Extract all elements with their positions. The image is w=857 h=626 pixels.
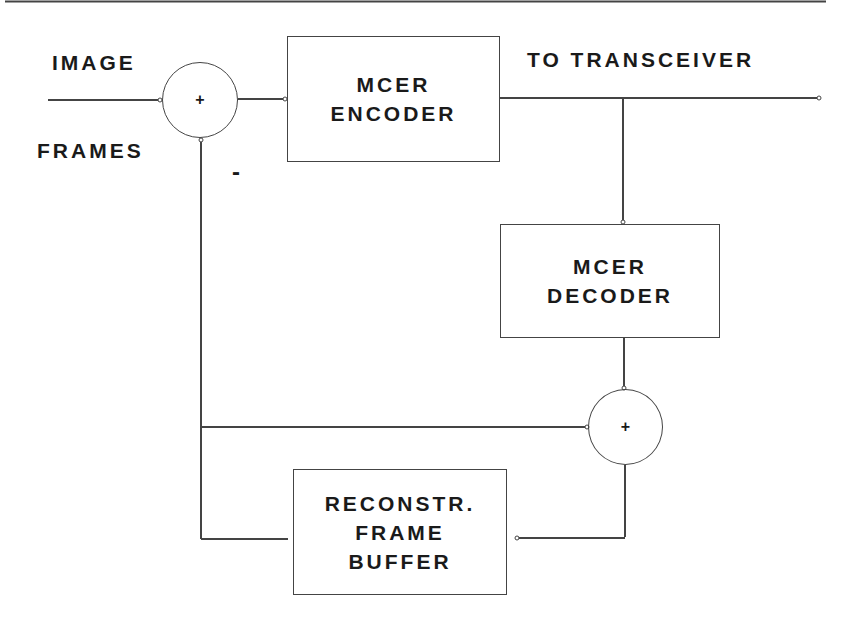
encoder-line2: ENCODER — [330, 99, 456, 128]
reconstructed-frame-buffer-block: RECONSTR. FRAME BUFFER — [293, 469, 507, 595]
plus-sign: + — [621, 418, 630, 436]
plus-sign: + — [195, 91, 204, 109]
decoder-line1: MCER — [573, 252, 647, 281]
encoder-line1: MCER — [357, 70, 431, 99]
reconstruction-summer: + — [588, 389, 663, 465]
mcer-decoder-block: MCER DECODER — [500, 224, 720, 338]
decoder-line2: DECODER — [547, 281, 673, 310]
label-image: IMAGE — [52, 51, 136, 75]
label-to-transceiver: TO TRANSCEIVER — [527, 48, 754, 72]
mcer-encoder-block: MCER ENCODER — [287, 36, 500, 162]
buffer-line1: RECONSTR. — [325, 489, 476, 518]
label-frames: FRAMES — [37, 139, 144, 163]
input-summer: + — [162, 62, 238, 138]
minus-sign: - — [232, 158, 243, 186]
buffer-line2: FRAME — [355, 518, 445, 547]
buffer-line3: BUFFER — [348, 547, 451, 576]
